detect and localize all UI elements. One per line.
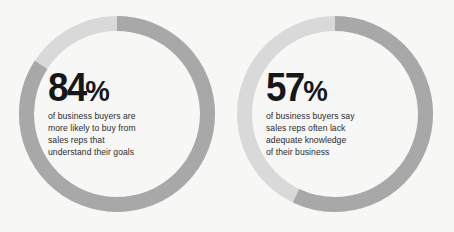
caption-line: adequate knowledge xyxy=(266,134,410,146)
percent-value-right: 57% xyxy=(266,69,398,106)
donut-center-label-right: 57% of business buyers say sales reps of… xyxy=(260,69,410,159)
caption-line: sales reps that xyxy=(48,134,192,146)
donut-center-label-left: 84% of business buyers are more likely t… xyxy=(42,69,192,159)
caption-left: of business buyers are more likely to bu… xyxy=(48,110,192,159)
percent-symbol-left: % xyxy=(85,74,108,107)
donut-chart-57-percent: 57% of business buyers say sales reps of… xyxy=(237,16,433,212)
caption-line: of business buyers are xyxy=(48,110,192,122)
caption-right: of business buyers say sales reps often … xyxy=(266,110,410,159)
caption-line: more likely to buy from xyxy=(48,122,192,134)
percent-value-left: 84% xyxy=(48,69,180,106)
donut-chart-84-percent: 84% of business buyers are more likely t… xyxy=(19,16,215,212)
infographic-canvas: 84% of business buyers are more likely t… xyxy=(0,0,454,232)
caption-line: of their business xyxy=(266,147,410,159)
caption-line: of business buyers say xyxy=(266,110,410,122)
percent-symbol-right: % xyxy=(303,74,326,107)
caption-line: understand their goals xyxy=(48,147,192,159)
caption-line: sales reps often lack xyxy=(266,122,410,134)
